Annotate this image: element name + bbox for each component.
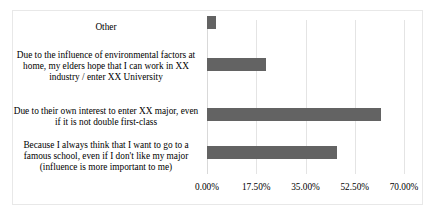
chart-frame: Other Due to the influence of environmen…: [12, 10, 423, 205]
bar-famous-school: [207, 146, 337, 159]
bar-other: [207, 16, 216, 29]
category-label-own-interest: Due to their own interest to enter XX ma…: [13, 106, 199, 128]
bar-environmental-influence: [207, 58, 266, 71]
category-label-other: Other: [13, 22, 199, 33]
category-axis-labels: Other Due to the influence of environmen…: [13, 20, 203, 174]
value-axis-labels: 0.00% 17.50% 35.00% 52.50% 70.00%: [207, 182, 404, 196]
bar-own-interest: [207, 108, 381, 121]
category-label-environmental-influence: Due to the influence of environmental fa…: [13, 50, 199, 84]
x-tick-label-3: 52.50%: [340, 182, 369, 192]
gridline-70-percent: [404, 20, 405, 174]
category-label-famous-school: Because I always think that I want to go…: [13, 140, 199, 174]
x-tick-label-4: 70.00%: [390, 182, 419, 192]
x-tick-label-2: 35.00%: [291, 182, 320, 192]
x-tick-label-0: 0.00%: [195, 182, 219, 192]
bar-series: [207, 20, 404, 174]
plot-area: [207, 20, 404, 174]
x-tick-label-1: 17.50%: [242, 182, 271, 192]
